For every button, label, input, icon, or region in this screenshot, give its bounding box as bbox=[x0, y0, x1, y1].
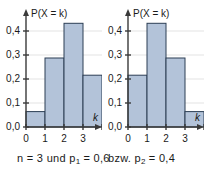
caption-left-prefix: n = 3 und p bbox=[17, 152, 76, 164]
bars-left bbox=[26, 23, 102, 127]
y-tick-label-4: 0,4 bbox=[6, 25, 20, 36]
x-tick-label-0: 0 bbox=[125, 133, 131, 144]
chart-right-binomial-p04: P(X = k) 0,0 0,1 0,2 0,3 0,4 0 1 2 3 k bbox=[102, 0, 204, 148]
x-tick-label-1: 1 bbox=[42, 133, 48, 144]
x-tick-label-2: 2 bbox=[163, 133, 169, 144]
figure-caption: n = 3 und p1 = 0,6 bzw. p2 = 0,4 bbox=[0, 147, 204, 170]
y-tick-label-4: 0,4 bbox=[108, 25, 122, 36]
y-axis-title: P(X = k) bbox=[31, 8, 67, 19]
caption-right: bzw. p2 = 0,4 bbox=[108, 147, 175, 170]
bar-k2 bbox=[64, 23, 83, 127]
y-tick-label-1: 0,1 bbox=[108, 97, 122, 108]
caption-left-value: = 0,6 bbox=[80, 152, 110, 164]
y-tick-label-0: 0,0 bbox=[6, 121, 20, 132]
y-tick-label-3: 0,3 bbox=[108, 49, 122, 60]
caption-left: n = 3 und p1 = 0,6 bbox=[17, 147, 110, 170]
x-tick-label-1: 1 bbox=[144, 133, 150, 144]
bar-k1 bbox=[45, 58, 64, 127]
bars-right bbox=[128, 23, 204, 127]
x-tick-label-3: 3 bbox=[182, 133, 188, 144]
caption-right-value: = 0,4 bbox=[145, 152, 175, 164]
bar-k2 bbox=[166, 58, 185, 127]
x-tick-label-0: 0 bbox=[23, 133, 29, 144]
x-tick-label-2: 2 bbox=[61, 133, 67, 144]
y-tick-label-3: 0,3 bbox=[6, 49, 20, 60]
bar-k0 bbox=[128, 75, 147, 127]
caption-right-prefix: bzw. p bbox=[108, 152, 141, 164]
y-tick-label-0: 0,0 bbox=[108, 121, 122, 132]
bar-k0 bbox=[26, 112, 45, 127]
x-tick-label-3: 3 bbox=[80, 133, 86, 144]
y-tick-label-2: 0,2 bbox=[6, 73, 20, 84]
y-axis-title: P(X = k) bbox=[133, 8, 169, 19]
y-tick-label-1: 0,1 bbox=[6, 97, 20, 108]
bar-k1 bbox=[147, 23, 166, 127]
binomial-distribution-figure: P(X = k) 0,0 0,1 0,2 0,3 0,4 0 1 2 3 k bbox=[0, 0, 204, 170]
y-tick-label-2: 0,2 bbox=[108, 73, 122, 84]
chart-left-binomial-p06: P(X = k) 0,0 0,1 0,2 0,3 0,4 0 1 2 3 k bbox=[0, 0, 102, 148]
chart-right-svg: P(X = k) 0,0 0,1 0,2 0,3 0,4 0 1 2 3 k bbox=[102, 0, 204, 148]
chart-left-svg: P(X = k) 0,0 0,1 0,2 0,3 0,4 0 1 2 3 k bbox=[0, 0, 102, 148]
